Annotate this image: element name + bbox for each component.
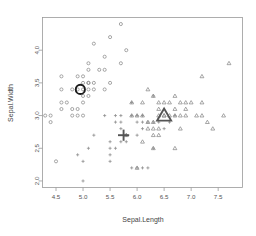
data-point <box>109 160 112 163</box>
data-point <box>227 61 231 64</box>
data-point <box>222 114 226 117</box>
data-point <box>163 127 166 130</box>
centroid-layer <box>76 85 171 141</box>
data-point <box>71 107 74 110</box>
data-point <box>87 68 90 71</box>
y-axis-ticks: 2.02.53.03.54.0 <box>33 45 43 185</box>
data-point <box>60 88 63 91</box>
data-point <box>60 107 63 110</box>
data-point <box>211 127 215 130</box>
data-point <box>141 101 145 104</box>
data-point <box>109 81 112 84</box>
scatter-plot-panel: 4.55.05.56.06.57.07.5 2.02.53.03.54.0 Se… <box>0 0 256 236</box>
data-point <box>162 101 166 104</box>
data-point <box>136 121 139 124</box>
data-point <box>119 22 122 25</box>
data-point <box>205 120 209 123</box>
data-point <box>151 127 155 130</box>
data-point <box>49 114 52 117</box>
data-point <box>184 101 188 104</box>
series-cluster-2 <box>76 94 176 182</box>
data-point <box>168 101 172 104</box>
y-tick-label: 3.5 <box>33 78 40 87</box>
data-point <box>173 107 177 110</box>
x-axis-ticks: 4.55.05.56.06.57.07.5 <box>52 188 223 201</box>
data-point <box>44 114 47 117</box>
data-point <box>81 75 84 78</box>
data-point <box>81 179 84 182</box>
centroid-plus <box>118 130 129 141</box>
data-point <box>136 134 139 137</box>
data-point <box>125 49 128 52</box>
data-point <box>151 133 155 136</box>
data-point <box>98 68 101 71</box>
data-point <box>200 114 204 117</box>
data-point <box>87 88 90 91</box>
x-tick-label: 5.0 <box>79 193 88 200</box>
data-point <box>76 107 79 110</box>
scatter-chart: 4.55.05.56.06.57.07.5 2.02.53.03.54.0 Se… <box>0 0 256 236</box>
data-point <box>119 127 122 130</box>
data-point <box>87 147 90 150</box>
data-point <box>114 121 117 124</box>
data-point <box>119 114 122 117</box>
data-point <box>76 75 79 78</box>
data-point <box>157 101 161 104</box>
data-point <box>119 121 122 124</box>
data-point <box>109 36 112 39</box>
series-cluster-3 <box>124 61 231 169</box>
data-point <box>162 114 166 117</box>
x-tick-label: 7.0 <box>187 193 196 200</box>
data-point <box>103 68 106 71</box>
data-point <box>103 114 106 117</box>
data-point <box>92 88 95 91</box>
data-point <box>173 146 177 149</box>
data-point <box>92 81 95 84</box>
data-point <box>49 121 52 124</box>
data-point <box>189 101 193 104</box>
data-point <box>184 107 188 110</box>
data-point <box>125 140 128 143</box>
data-point <box>130 166 133 169</box>
data-point <box>173 94 177 97</box>
data-point <box>178 101 182 104</box>
data-point <box>81 160 84 163</box>
data-point <box>87 94 90 97</box>
data-point <box>81 101 84 104</box>
data-point <box>200 101 204 104</box>
data-point <box>109 153 112 156</box>
data-point <box>103 55 106 58</box>
data-point <box>119 140 122 143</box>
y-tick-label: 3.0 <box>33 111 40 120</box>
data-point <box>114 114 117 117</box>
data-point <box>157 107 161 110</box>
data-point <box>141 121 144 124</box>
data-point <box>76 153 79 156</box>
data-point <box>71 114 74 117</box>
data-point <box>178 114 182 117</box>
data-point <box>103 88 106 91</box>
x-axis-title: Sepal.Length <box>122 216 163 224</box>
data-point <box>195 114 199 117</box>
data-point <box>87 62 90 65</box>
data-point <box>146 127 150 130</box>
data-point <box>146 166 149 169</box>
x-tick-label: 6.0 <box>133 193 142 200</box>
data-point <box>81 114 84 117</box>
data-point <box>60 101 63 104</box>
centroid-circle <box>76 85 85 94</box>
plot-frame <box>43 18 243 188</box>
data-point <box>157 127 161 130</box>
data-point <box>92 42 95 45</box>
data-point <box>141 140 145 143</box>
data-point <box>92 134 95 137</box>
data-point <box>65 101 68 104</box>
y-axis-title: Sepal.Width <box>7 84 15 122</box>
y-tick-label: 4.0 <box>33 45 40 54</box>
data-point <box>76 114 79 117</box>
data-point <box>178 127 182 130</box>
data-point <box>71 88 74 91</box>
data-point <box>81 81 84 84</box>
x-tick-label: 4.5 <box>52 193 61 200</box>
x-tick-label: 7.5 <box>214 193 223 200</box>
